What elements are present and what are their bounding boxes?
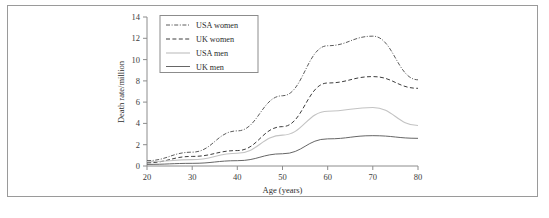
y-tick-label-6: 6 (136, 97, 140, 107)
y-tick-label-0: 0 (136, 161, 140, 171)
x-tick-label-20: 20 (143, 172, 152, 182)
y-tick-label-4: 4 (136, 118, 141, 128)
x-tick-label-40: 40 (233, 172, 242, 182)
x-axis-title: Age (years) (263, 185, 303, 195)
x-tick-label-30: 30 (188, 172, 197, 182)
y-tick-label-10: 10 (132, 55, 141, 65)
series-line-uk-women (147, 77, 418, 163)
x-tick-label-70: 70 (369, 172, 378, 182)
legend-label-usa-men: USA men (196, 49, 228, 58)
legend-label-uk-women: UK women (196, 35, 234, 44)
line-chart: 0 2 4 6 8 10 12 14 20 30 40 50 60 70 80 … (0, 0, 549, 218)
x-tick-label-50: 50 (278, 172, 287, 182)
y-tick-label-2: 2 (136, 140, 140, 150)
chart-canvas: 0 2 4 6 8 10 12 14 20 30 40 50 60 70 80 … (0, 0, 549, 218)
y-tick-label-8: 8 (136, 76, 140, 86)
x-axis-ticks (147, 166, 418, 170)
y-axis-ticks (143, 17, 147, 166)
x-tick-label-80: 80 (414, 172, 423, 182)
y-tick-label-12: 12 (132, 33, 141, 43)
legend-label-uk-men: UK men (196, 63, 224, 72)
y-tick-label-14: 14 (132, 12, 141, 22)
x-tick-label-60: 60 (323, 172, 332, 182)
figure-caption-strip (0, 207, 549, 218)
y-axis-title: Death rate/million (116, 60, 126, 123)
legend-label-usa-women: USA women (196, 21, 238, 30)
chart-legend: USA women UK women USA men UK men (160, 16, 258, 73)
